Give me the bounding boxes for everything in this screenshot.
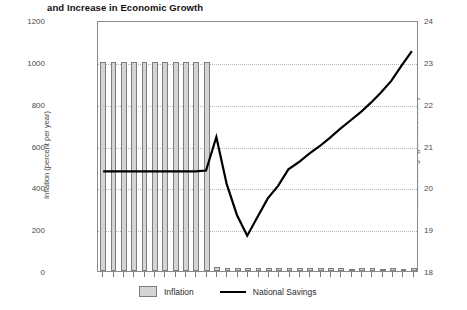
- right-tick-label: 20: [424, 184, 460, 193]
- x-tick-mark: [278, 272, 279, 277]
- x-tick-mark: [206, 272, 207, 277]
- x-tick-mark: [392, 272, 393, 277]
- left-tick-label: 0: [9, 268, 45, 277]
- x-tick-mark: [299, 272, 300, 277]
- x-tick-mark: [237, 272, 238, 277]
- x-tick-mark: [330, 272, 331, 277]
- legend-item-national-savings: National Savings: [220, 287, 317, 297]
- x-tick-mark: [133, 272, 134, 277]
- x-tick-mark: [247, 272, 248, 277]
- x-tick-mark: [320, 272, 321, 277]
- left-tick-label: 1000: [9, 58, 45, 67]
- chart-title: and Increase in Economic Growth: [47, 2, 203, 13]
- x-tick-mark: [371, 272, 372, 277]
- x-tick-mark: [102, 272, 103, 277]
- left-tick-label: 400: [9, 184, 45, 193]
- savings-polyline: [103, 51, 412, 236]
- x-tick-mark: [309, 272, 310, 277]
- x-tick-mark: [113, 272, 114, 277]
- x-tick-mark: [340, 272, 341, 277]
- right-tick-label: 24: [424, 17, 460, 26]
- x-tick-mark: [258, 272, 259, 277]
- x-tick-mark: [185, 272, 186, 277]
- x-tick-mark: [268, 272, 269, 277]
- x-tick-mark: [382, 272, 383, 277]
- legend-label: Inflation: [164, 287, 194, 297]
- legend-label: National Savings: [253, 287, 317, 297]
- x-tick-mark: [361, 272, 362, 277]
- x-tick-mark: [144, 272, 145, 277]
- x-tick-mark: [154, 272, 155, 277]
- x-tick-mark: [351, 272, 352, 277]
- x-tick-mark: [175, 272, 176, 277]
- left-tick-label: 600: [9, 142, 45, 151]
- x-tick-mark: [195, 272, 196, 277]
- legend-item-inflation: Inflation: [139, 286, 194, 297]
- left-tick-label: 800: [9, 100, 45, 109]
- right-tick-label: 21: [424, 142, 460, 151]
- x-tick-mark: [164, 272, 165, 277]
- right-tick-label: 22: [424, 100, 460, 109]
- left-tick-label: 1200: [9, 17, 45, 26]
- chart-legend: Inflation National Savings: [139, 286, 317, 297]
- left-tick-label: 200: [9, 226, 45, 235]
- line-svg: [98, 22, 417, 271]
- x-tick-mark: [289, 272, 290, 277]
- right-tick-label: 18: [424, 268, 460, 277]
- right-tick-label: 23: [424, 58, 460, 67]
- x-tick-mark: [226, 272, 227, 277]
- right-tick-label: 19: [424, 226, 460, 235]
- x-tick-mark: [123, 272, 124, 277]
- chart-container: and Increase in Economic Growth Inflatio…: [0, 0, 467, 310]
- plot-area: [97, 21, 418, 272]
- x-tick-mark: [413, 272, 414, 277]
- legend-swatch-icon: [139, 286, 157, 297]
- legend-line-icon: [220, 291, 246, 293]
- line-series-national-savings: [98, 22, 417, 271]
- x-tick-mark: [216, 272, 217, 277]
- x-tick-mark: [402, 272, 403, 277]
